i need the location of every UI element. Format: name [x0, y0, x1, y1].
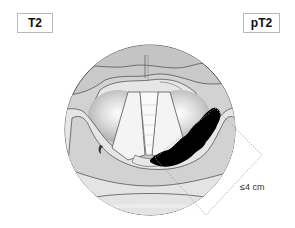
larynx-diagram: ≤4 cm: [0, 0, 295, 228]
larynx-view-circle: [60, 45, 240, 228]
measurement-label: ≤4 cm: [240, 182, 264, 192]
